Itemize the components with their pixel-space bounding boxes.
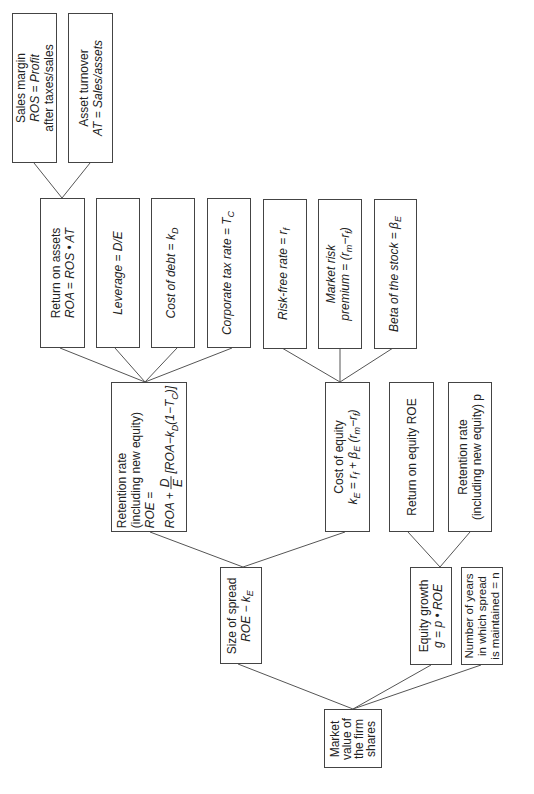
retention-rate-label: Retention rate (including new equity) p [456, 394, 484, 520]
sales-margin-label: Sales margin [14, 44, 28, 131]
ros-formula: ROS = Profit [28, 44, 42, 131]
sales-margin-box: Sales margin ROS = Profit after taxes/sa… [12, 13, 57, 163]
cost-of-equity-box: Cost of equity kE = rf + βE (rm−rf) [325, 382, 370, 532]
risk-free-rate-label: Risk-free rate = rf [276, 228, 294, 320]
beta-label: Beta of the stock = βE [386, 216, 404, 332]
corporate-tax-rate-label: Corporate tax rate = TC [220, 211, 238, 335]
at-formula: AT = Sales/assets [91, 40, 105, 136]
asset-turnover-label: Asset turnover [77, 40, 91, 136]
market-risk-premium-label: Market risk premium = (rm−rf) [324, 227, 356, 320]
risk-free-rate-box: Risk-free rate = rf [263, 199, 307, 349]
leverage-label: Leverage = D/E [111, 231, 125, 315]
corporate-tax-rate-box: Corporate tax rate = TC [207, 198, 251, 348]
size-of-spread-box: Size of spread ROE − kE [220, 567, 262, 664]
roe-formula-box: Retention rate (including new equity) RO… [111, 382, 187, 532]
leverage-box: Leverage = D/E [96, 198, 140, 348]
years-maintained-box: Number of years in which spread is maint… [461, 567, 503, 665]
return-on-equity-box: Return on equity ROE [389, 382, 434, 532]
ros-formula-cont: after taxes/sales [42, 44, 56, 131]
size-of-spread-text: Size of spread ROE − kE [225, 577, 257, 654]
roa-label: Return on assets [49, 228, 63, 319]
cost-of-equity-text: Cost of equity kE = rf + βE (rm−rf) [331, 409, 363, 504]
beta-box: Beta of the stock = βE [374, 199, 417, 349]
roe-formula-text: Retention rate (including new equity) RO… [115, 386, 184, 528]
roa-formula: ROA = ROS • AT [63, 228, 77, 319]
return-on-equity-label: Return on equity ROE [405, 398, 419, 515]
equity-growth-text: Equity growth g = p • ROE [417, 580, 445, 653]
return-on-assets-box: Return on assets ROA = ROS • AT [40, 198, 85, 348]
asset-turnover-box: Asset turnover AT = Sales/assets [68, 13, 113, 163]
years-maintained-text: Number of years in which spread is maint… [463, 572, 502, 659]
retention-rate-box: Retention rate (including new equity) p [448, 382, 492, 532]
cost-of-debt-label: Cost of debt = kD [164, 228, 182, 319]
market-value-box: Market value of the firm shares [324, 709, 382, 768]
cost-of-debt-box: Cost of debt = kD [151, 198, 195, 348]
market-value-text: Market value of the firm shares [329, 717, 377, 759]
market-risk-premium-box: Market risk premium = (rm−rf) [318, 199, 362, 349]
equity-growth-box: Equity growth g = p • ROE [410, 567, 452, 665]
